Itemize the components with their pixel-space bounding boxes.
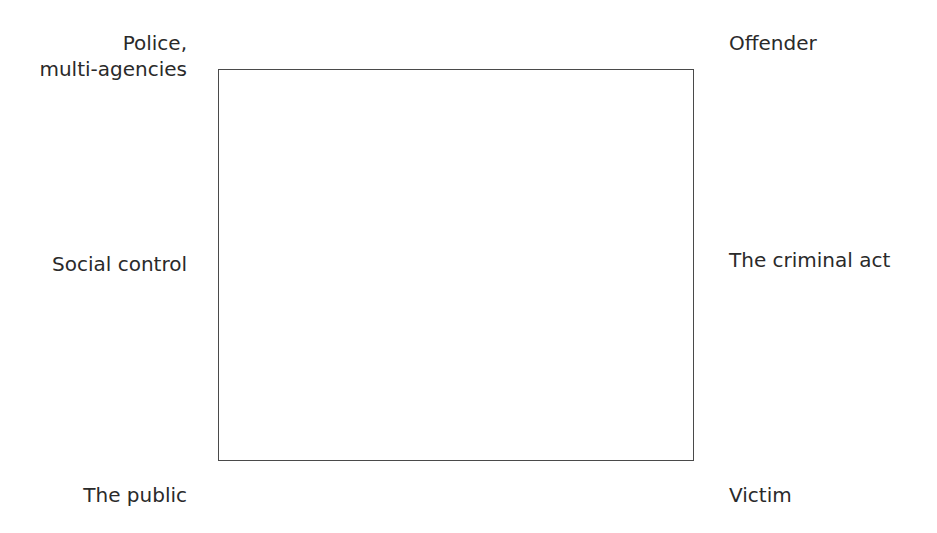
- label-victim: Victim: [729, 482, 792, 508]
- label-line-2: multi-agencies: [39, 56, 187, 82]
- label-the-public: The public: [83, 482, 187, 508]
- label-offender: Offender: [729, 30, 817, 56]
- label-line-1: Police,: [39, 30, 187, 56]
- central-box: [218, 69, 694, 461]
- label-criminal-act: The criminal act: [729, 247, 890, 273]
- label-social-control: Social control: [52, 251, 187, 277]
- label-police-multi-agencies: Police, multi-agencies: [39, 30, 187, 82]
